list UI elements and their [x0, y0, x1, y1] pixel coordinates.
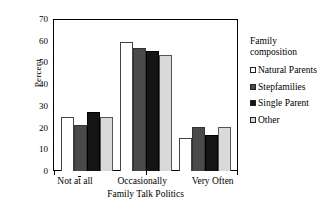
y-axis-tick-label: 10	[39, 144, 48, 154]
y-axis-tick-label: 70	[39, 14, 48, 24]
y-axis-tick-label: 0	[44, 166, 49, 176]
legend-swatch-icon	[250, 100, 256, 106]
bar[interactable]	[205, 135, 218, 171]
bar-group	[61, 19, 113, 171]
x-axis-title: Family Talk Politics	[53, 189, 238, 199]
plot-area	[53, 19, 238, 171]
y-axis-tick-label: 30	[39, 101, 48, 111]
x-axis-tick-mark	[54, 171, 55, 175]
bar[interactable]	[87, 112, 100, 171]
bar[interactable]	[179, 138, 192, 171]
legend-swatch-icon	[250, 67, 256, 73]
legend-title: Family composition	[250, 36, 335, 58]
legend-item[interactable]: Single Parent	[250, 97, 335, 109]
y-axis-tick-label: 40	[39, 79, 48, 89]
bar[interactable]	[218, 127, 231, 172]
x-axis-tick-mark	[146, 171, 147, 175]
bar[interactable]	[120, 42, 133, 171]
legend-item-label: Stepfamilies	[258, 81, 306, 93]
legend-item[interactable]: Other	[250, 114, 335, 126]
x-axis-tick-mark	[237, 171, 238, 175]
legend-item-label: Single Parent	[258, 97, 309, 109]
y-axis-tick-label: 50	[39, 57, 48, 67]
bar-group	[120, 19, 172, 171]
legend-items: Natural ParentsStepfamiliesSingle Parent…	[250, 64, 335, 126]
bar[interactable]	[74, 125, 87, 171]
y-axis-tick-label: 60	[39, 36, 48, 46]
legend: Family composition Natural ParentsStepfa…	[250, 36, 335, 130]
y-axis-tick-label: 20	[39, 123, 48, 133]
x-axis-tick-label: Very Often	[192, 176, 234, 186]
bar[interactable]	[61, 117, 74, 171]
x-axis-tick-label: Occasionally	[117, 176, 167, 186]
legend-title-line-1: Family	[250, 36, 335, 47]
legend-item-label: Other	[258, 114, 280, 126]
legend-item[interactable]: Natural Parents	[250, 64, 335, 76]
bar-chart-figure: Percent 010203040506070 Not at allOccasi…	[0, 0, 335, 209]
legend-swatch-icon	[250, 117, 256, 123]
y-axis-tick-labels: 010203040506070	[28, 14, 48, 172]
x-axis-tick-label: Not at all	[57, 176, 92, 186]
bar[interactable]	[192, 127, 205, 172]
legend-item[interactable]: Stepfamilies	[250, 81, 335, 93]
legend-swatch-icon	[250, 84, 256, 90]
bar[interactable]	[133, 48, 146, 171]
bar[interactable]	[159, 55, 172, 171]
bar-group	[179, 19, 231, 171]
legend-item-label: Natural Parents	[258, 64, 317, 76]
x-axis-tick-labels: Not at allOccasionallyVery Often	[45, 176, 246, 186]
bar[interactable]	[100, 117, 113, 171]
legend-title-line-2: composition	[250, 47, 335, 58]
x-axis-tick-marks	[53, 171, 238, 175]
bar[interactable]	[146, 51, 159, 172]
